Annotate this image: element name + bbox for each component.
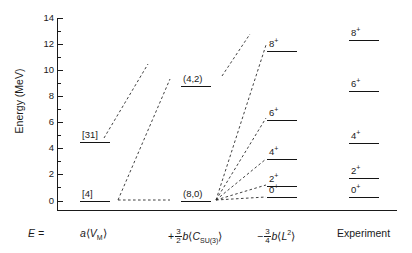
energy-level-label: 4+ (269, 147, 278, 157)
term2-close-bracket: ⟩ (218, 230, 222, 242)
energy-level-label: (4,2) (183, 74, 203, 84)
y-axis-title: Energy (MeV) (13, 46, 25, 156)
y-tick-minor-9 (58, 83, 61, 84)
y-tick-minor-11 (58, 57, 61, 58)
energy-level-line (80, 201, 110, 202)
energy-level-label: 0+ (351, 185, 360, 195)
y-tick-label-14: 14 (32, 13, 54, 23)
y-tick-major-2 (58, 174, 63, 175)
energy-level-label: (8,0) (183, 189, 203, 199)
y-tick-label-8: 8 (32, 91, 54, 101)
energy-level-label: 0+ (269, 185, 278, 195)
energy-level-line (267, 197, 297, 198)
formula-row: E = a⟨VM⟩ +32b⟨CSU(3)⟩ −34b⟨L2⟩ Experime… (0, 218, 412, 253)
y-tick-label-wrap-8: 8 (28, 91, 54, 101)
level-parity-sign: + (274, 36, 278, 43)
y-tick-label-wrap-4: 4 (28, 143, 54, 153)
energy-level-label: 6+ (269, 108, 278, 118)
x-axis-line (57, 210, 397, 211)
connector-42-up (222, 34, 250, 76)
energy-level-label: 2+ (269, 174, 278, 184)
level-parity-sign: + (274, 145, 278, 152)
energy-level-line (267, 159, 297, 160)
level-parity-sign: + (274, 183, 278, 190)
term2-sign: + (168, 230, 174, 242)
energy-level-line (181, 201, 211, 202)
formula-term-2: +32b⟨CSU(3)⟩ (168, 228, 222, 246)
term3-close-bracket: ⟩ (291, 230, 295, 242)
energy-level-label: 4+ (351, 131, 360, 141)
y-tick-minor-1 (58, 187, 61, 188)
formula-term-3: −34b⟨L2⟩ (257, 228, 295, 246)
energy-level-label: 8+ (269, 39, 278, 49)
energy-level-line (349, 91, 379, 92)
energy-level-line (349, 40, 379, 41)
y-tick-major-8 (58, 96, 63, 97)
level-parity-sign: + (356, 129, 360, 136)
term1-symbol: V (90, 227, 97, 239)
y-tick-major-0 (58, 201, 63, 202)
energy-level-line (349, 143, 379, 144)
term1-close-bracket: ⟩ (103, 227, 107, 239)
level-parity-sign: + (356, 77, 360, 84)
energy-level-label: [31] (82, 130, 98, 140)
level-parity-sign: + (356, 26, 360, 33)
connector-31-up (104, 64, 148, 138)
energy-level-line (349, 197, 379, 198)
energy-level-line (267, 186, 297, 187)
term2-denominator: 2 (175, 237, 181, 245)
y-tick-label-wrap-12: 12 (28, 39, 54, 49)
term2-subscript: SU(3) (200, 237, 218, 244)
y-tick-label-wrap-2: 2 (28, 169, 54, 179)
level-parity-sign: + (274, 106, 278, 113)
level-parity-sign: + (356, 164, 360, 171)
level-parity-sign: + (274, 171, 278, 178)
energy-level-line (181, 86, 211, 87)
term3-sign: − (257, 230, 263, 242)
formula-experiment-label: Experiment (337, 228, 390, 239)
formula-term-1: a⟨VM⟩ (80, 228, 107, 239)
y-tick-label-wrap-0: 0 (28, 196, 54, 206)
y-tick-label-2: 2 (32, 169, 54, 179)
connector-80-to-4plus (216, 159, 266, 200)
y-tick-label-12: 12 (32, 39, 54, 49)
energy-level-line (80, 142, 110, 143)
y-tick-label-0: 0 (32, 196, 54, 206)
energy-level-line (349, 178, 379, 179)
connector-80-to-6plus (216, 118, 266, 200)
y-tick-label-wrap-6: 6 (28, 117, 54, 127)
y-tick-label-4: 4 (32, 143, 54, 153)
y-tick-minor-5 (58, 135, 61, 136)
level-parity-sign: + (356, 182, 360, 189)
y-tick-major-10 (58, 70, 63, 71)
y-tick-label-wrap-14: 14 (28, 13, 54, 23)
term3-denominator: 4 (264, 237, 270, 245)
energy-level-label: [4] (82, 189, 93, 199)
energy-level-label: 6+ (351, 79, 360, 89)
plot-area: Energy (MeV) 02468101214 (0, 0, 412, 253)
y-tick-minor-13 (58, 31, 61, 32)
y-tick-major-14 (58, 18, 63, 19)
y-tick-major-12 (58, 44, 63, 45)
energy-level-label: 2+ (351, 166, 360, 176)
term2-symbol: C (192, 230, 200, 242)
connector-80-to-0plus (216, 197, 266, 200)
y-tick-major-4 (58, 148, 63, 149)
energy-level-line (267, 120, 297, 121)
connector-80-to-8plus (216, 45, 266, 200)
y-tick-minor-3 (58, 161, 61, 162)
term3-fraction: 34 (264, 228, 270, 246)
y-tick-label-10: 10 (32, 65, 54, 75)
formula-equals: E = (28, 228, 44, 239)
energy-level-label: 8+ (351, 28, 360, 38)
term2-fraction: 32 (175, 228, 181, 246)
connector-80-to-2plus (216, 185, 266, 200)
connector-4-to-42 (118, 79, 170, 200)
energy-level-line (267, 51, 297, 52)
y-axis-line (57, 18, 58, 211)
y-tick-major-6 (58, 122, 63, 123)
y-tick-minor-7 (58, 109, 61, 110)
energy-level-diagram-figure: Energy (MeV) 02468101214 (0, 0, 412, 253)
y-tick-label-wrap-10: 10 (28, 65, 54, 75)
y-tick-label-6: 6 (32, 117, 54, 127)
